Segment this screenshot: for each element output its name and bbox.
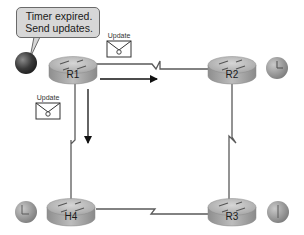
callout-line-2: Send updates. bbox=[17, 22, 101, 34]
timer-expired-icon bbox=[15, 52, 37, 74]
link-h4-r1 bbox=[71, 80, 75, 199]
clock-icon-r3 bbox=[267, 201, 289, 223]
envelope-icon bbox=[36, 103, 60, 119]
envelope-icon bbox=[107, 41, 131, 57]
callout-line-1: Timer expired. bbox=[17, 10, 101, 22]
envelope-label-r1-h4: Update bbox=[33, 94, 63, 101]
link-r3-h4 bbox=[96, 209, 210, 214]
router-label-r2: R2 bbox=[217, 69, 247, 80]
clock-icon-h4 bbox=[15, 201, 37, 223]
clock-icon-r2 bbox=[266, 57, 288, 79]
rip-update-timer-diagram: Timer expired. Send updates. Update Upda… bbox=[0, 0, 304, 235]
callout-text: Timer expired. Send updates. bbox=[17, 10, 101, 34]
router-label-r3: R3 bbox=[217, 211, 247, 222]
link-r2-r3 bbox=[229, 82, 236, 199]
timer-callout: Timer expired. Send updates. bbox=[16, 7, 100, 38]
router-label-r1: R1 bbox=[58, 69, 88, 80]
envelope-label-r1-r2: Update bbox=[104, 32, 134, 39]
router-label-h4: H4 bbox=[56, 211, 86, 222]
link-r1-r2 bbox=[96, 61, 210, 69]
